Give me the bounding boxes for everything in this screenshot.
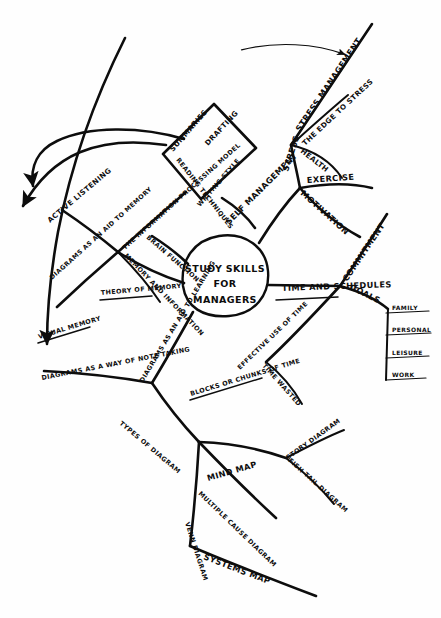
label-mind-map: MIND MAP (206, 459, 258, 483)
center-line3: MANAGERS (193, 294, 257, 305)
branch-self-management: SELF MANAGEMENT STRESS STRESS MANAGEMENT… (223, 24, 375, 243)
goal-item-work: WORK (392, 371, 415, 378)
label-summaries: SUMMARIES (168, 108, 209, 154)
center-line2: FOR (213, 278, 236, 289)
goal-item-personal: PERSONAL (392, 326, 431, 333)
label-active-listening: ACTIVE LISTENING (46, 166, 114, 225)
arrow-to-left (32, 129, 184, 186)
mindmap-canvas: STUDY SKILLS FOR MANAGERS SELF MANAGEMEN… (0, 0, 441, 618)
label-stress: STRESS (280, 134, 301, 172)
label-fish-tail-diagram: FISH TAIL DIAGRAM (287, 457, 350, 515)
label-story-diagram: STORY DIAGRAM (284, 417, 341, 462)
goal-item-leisure: LEISURE (392, 349, 423, 356)
mindmap-drawing: STUDY SKILLS FOR MANAGERS SELF MANAGEMEN… (0, 0, 441, 618)
label-exercise: EXERCISE (306, 172, 354, 185)
arrow-to-stress-management (242, 44, 345, 54)
label-types-of-diagram: TYPES OF DIAGRAM (118, 419, 182, 475)
label-drafting: DRAFTING (203, 109, 240, 148)
goal-item-family: FAMILY (392, 304, 418, 311)
label-motivation: MOTIVATION (299, 188, 352, 237)
goal-items: FAMILY PERSONAL LEISURE WORK (386, 304, 431, 380)
center-line1: STUDY SKILLS (185, 263, 265, 274)
